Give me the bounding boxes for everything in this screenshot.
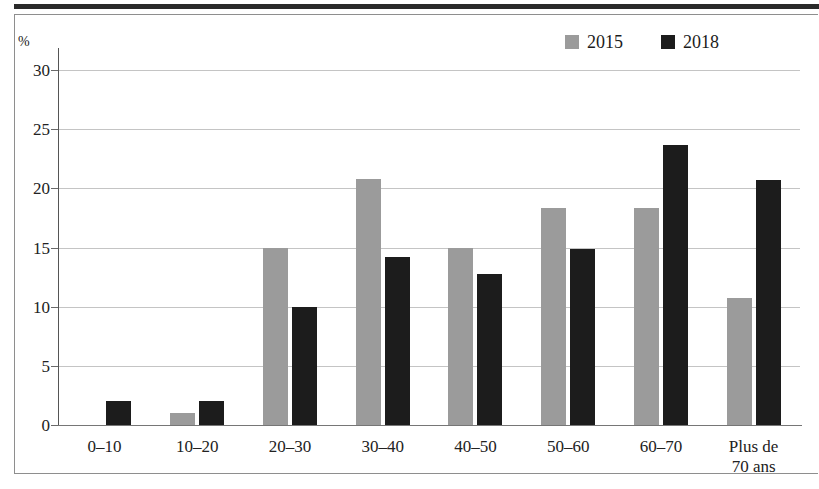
bar-2015-20–30 <box>263 248 288 426</box>
y-axis-tick-label: 15 <box>16 240 50 257</box>
y-axis-tick-label: 5 <box>16 358 50 375</box>
y-axis-tick-label: 30 <box>16 62 50 79</box>
chart-legend: 20152018 <box>565 33 747 51</box>
legend-label: 2015 <box>587 33 623 51</box>
y-axis-tick <box>51 70 58 71</box>
bars-layer <box>58 60 800 425</box>
x-axis-category-label: 30–40 <box>336 437 429 457</box>
x-axis-category-label: Plus de 70 ans <box>707 437 800 477</box>
bar-2015-30–40 <box>356 179 381 425</box>
x-axis-category-label: 60–70 <box>615 437 708 457</box>
bar-2018-20–30 <box>292 307 317 425</box>
legend-item-2018: 2018 <box>661 33 719 51</box>
x-axis-category-label: 10–20 <box>151 437 244 457</box>
y-axis-tick-label: 10 <box>16 299 50 316</box>
y-axis-tick-label: 25 <box>16 121 50 138</box>
legend-swatch-icon <box>565 35 579 49</box>
y-axis-tick-label: 20 <box>16 180 50 197</box>
bar-2018-50–60 <box>570 249 595 425</box>
y-axis-tick <box>51 248 58 249</box>
bar-2018-40–50 <box>477 274 502 425</box>
bar-chart-figure: % 051015202530 0–1010–2020–3030–4040–505… <box>0 0 819 489</box>
y-axis-tick <box>51 307 58 308</box>
x-axis-category-label: 40–50 <box>429 437 522 457</box>
bar-2015-Plus-de-70-ans <box>727 298 752 425</box>
bar-2015-50–60 <box>541 208 566 425</box>
x-axis-category-label: 0–10 <box>58 437 151 457</box>
legend-swatch-icon <box>661 35 675 49</box>
bar-2018-0–10 <box>106 401 131 425</box>
y-axis-tick <box>51 188 58 189</box>
bar-2015-10–20 <box>170 413 195 425</box>
y-axis-tick <box>51 425 58 426</box>
bar-2018-10–20 <box>199 401 224 425</box>
bar-2015-40–50 <box>448 248 473 426</box>
x-axis-line <box>58 425 802 426</box>
legend-item-2015: 2015 <box>565 33 623 51</box>
y-axis-tick-label: 0 <box>16 417 50 434</box>
x-axis-category-label: 50–60 <box>522 437 615 457</box>
bar-2015-60–70 <box>634 208 659 425</box>
y-axis-tick-labels: 051015202530 <box>8 0 50 489</box>
x-axis-category-label: 20–30 <box>244 437 337 457</box>
bar-2018-60–70 <box>663 145 688 425</box>
bar-2018-Plus-de-70-ans <box>756 180 781 425</box>
legend-label: 2018 <box>683 33 719 51</box>
bar-2018-30–40 <box>385 257 410 425</box>
top-rule-divider <box>14 4 819 9</box>
y-axis-tick <box>51 366 58 367</box>
y-axis-tick <box>51 129 58 130</box>
